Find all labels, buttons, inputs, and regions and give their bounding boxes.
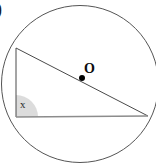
option-paren-label: ) [0,0,2,18]
triangle-hypotenuse-diameter [16,48,148,116]
center-point-label-o: O [84,62,95,76]
geometry-figure-container: ) O x [0,0,156,167]
triangle-leg-horizontal [16,116,148,117]
geometry-diagram [0,0,156,167]
circle-outline [2,6,157,163]
angle-label-x: x [20,99,26,110]
